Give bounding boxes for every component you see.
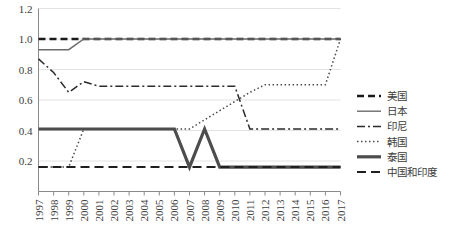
x-tick-label: 1998 — [48, 199, 60, 222]
x-tick-label: 1999 — [63, 199, 75, 222]
chart-legend: 美国日本印尼韩国泰国中国和印度 — [357, 90, 438, 178]
x-tick-label: 2014 — [289, 199, 301, 222]
x-tick-labels: 1997199819992000200120022003200420052006… — [33, 199, 347, 222]
y-tick-labels: 1.21.00.80.60.40.2 — [19, 3, 33, 168]
y-tick-label: 0.8 — [19, 64, 33, 76]
x-tick-label: 2002 — [108, 200, 120, 222]
x-tick-label: 2010 — [229, 199, 241, 222]
x-tick-label: 2013 — [274, 199, 286, 222]
legend-label: 韩国 — [387, 136, 407, 148]
legend-label: 印尼 — [387, 121, 407, 132]
x-axis — [39, 192, 341, 196]
y-tick-label: 0.2 — [19, 155, 33, 167]
x-tick-label: 2006 — [168, 199, 180, 222]
legend-label: 泰国 — [387, 151, 407, 163]
legend-label: 中国和印度 — [387, 166, 438, 178]
data-series-group — [39, 39, 341, 167]
x-tick-label: 2012 — [259, 200, 271, 222]
x-tick-label: 2004 — [138, 199, 150, 222]
x-tick-label: 1997 — [33, 199, 45, 222]
series-line — [39, 39, 341, 167]
x-tick-label: 2007 — [184, 199, 196, 222]
x-tick-label: 2000 — [78, 199, 90, 222]
x-tick-label: 2017 — [335, 199, 347, 222]
grid-lines — [39, 9, 341, 162]
x-tick-label: 2016 — [319, 199, 331, 222]
line-chart: 1.21.00.80.60.40.2 199719981999200020012… — [0, 0, 453, 252]
x-tick-label: 2015 — [304, 199, 316, 222]
y-tick-label: 0.4 — [19, 125, 33, 137]
y-tick-label: 1.2 — [19, 3, 33, 15]
series-line — [39, 39, 341, 50]
x-tick-label: 2001 — [93, 200, 105, 222]
x-tick-label: 2011 — [244, 200, 256, 222]
y-tick-label: 1.0 — [19, 33, 33, 45]
x-tick-label: 2009 — [214, 199, 226, 222]
legend-label: 日本 — [387, 105, 408, 117]
x-tick-label: 2008 — [199, 199, 211, 222]
legend-label: 美国 — [387, 90, 407, 102]
x-tick-label: 2003 — [123, 199, 135, 222]
x-tick-label: 2005 — [153, 199, 165, 222]
chart-container: 1.21.00.80.60.40.2 199719981999200020012… — [0, 0, 453, 252]
y-tick-label: 0.6 — [19, 94, 33, 106]
